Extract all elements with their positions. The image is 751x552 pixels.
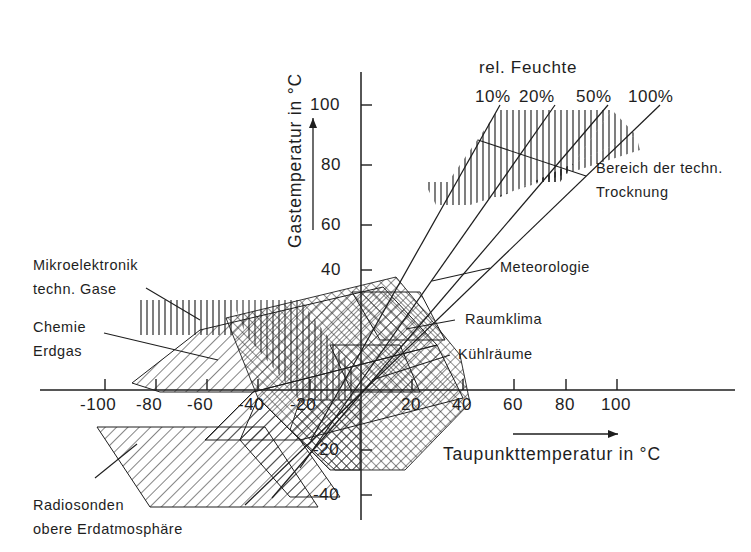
y-tick-minus40: -40 [313, 484, 339, 506]
y-tick-40: 40 [321, 259, 341, 281]
annotation-chemie-line2: Erdgas [33, 342, 82, 361]
annotation-mikroelektronik-line2: techn. Gase [33, 280, 117, 299]
annotation-trocknung-line1: Bereich der techn. [596, 159, 723, 178]
annotation-meteorologie: Meteorologie [500, 258, 590, 277]
chart-canvas [0, 0, 751, 552]
x-tick-20: 20 [401, 394, 421, 416]
x-tick-minus40: -40 [238, 394, 264, 416]
region-mikroelektronik [137, 300, 232, 335]
x-tick-minus80: -80 [136, 394, 162, 416]
annotation-mikroelektronik-line1: Mikroelektronik [33, 256, 138, 275]
x-tick-minus60: -60 [187, 394, 213, 416]
x-axis-title: Taupunkttemperatur in °C [443, 443, 661, 466]
x-tick-40: 40 [452, 394, 472, 416]
x-tick-60: 60 [503, 394, 523, 416]
y-tick-minus20: -20 [313, 439, 339, 461]
x-tick-80: 80 [555, 394, 575, 416]
humidity-label-100: 100% [628, 86, 673, 108]
annotation-radiosonden-line2: obere Erdatmosphäre [33, 520, 183, 539]
humidity-heading: rel. Feuchte [479, 57, 577, 79]
y-tick-80: 80 [321, 154, 341, 176]
x-tick-minus100: -100 [80, 394, 116, 416]
y-tick-100: 100 [310, 94, 340, 116]
annotation-trocknung-line2: Trocknung [596, 183, 668, 202]
annotation-raumklima: Raumklima [465, 310, 542, 329]
humidity-label-10: 10% [475, 86, 511, 108]
x-tick-100: 100 [601, 394, 631, 416]
annotation-chemie-line1: Chemie [33, 318, 86, 337]
humidity-label-50: 50% [576, 86, 612, 108]
leader-meteorologie [432, 268, 490, 281]
annotation-radiosonden-line1: Radiosonden [33, 496, 124, 515]
y-tick-60: 60 [321, 214, 341, 236]
annotation-kuehlraeume: Kühlräume [458, 345, 533, 364]
x-tick-minus20: -20 [290, 394, 316, 416]
chart-figure: Gastemperatur in °C Taupunkttemperatur i… [0, 0, 751, 552]
humidity-label-20: 20% [519, 86, 555, 108]
y-axis-title: Gastemperatur in °C [284, 73, 307, 248]
